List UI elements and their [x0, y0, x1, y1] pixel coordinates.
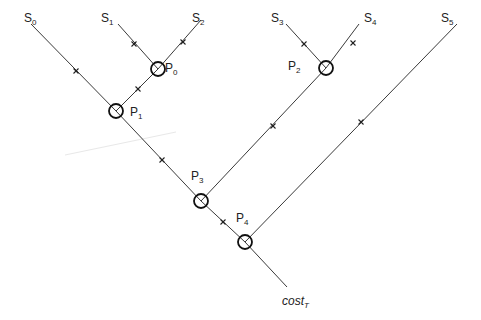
tree-diagram: [0, 0, 481, 320]
source-label-s2: S2: [192, 12, 204, 27]
edge: [201, 68, 326, 201]
source-label-s1: S1: [101, 12, 113, 27]
source-label-s0: S0: [24, 12, 36, 27]
source-label-s4: S4: [364, 12, 376, 27]
edge: [245, 242, 287, 287]
aggregation-nodes: [109, 61, 333, 249]
cross-marks: [74, 40, 364, 225]
node-label-p2: P2: [288, 60, 300, 75]
cross-mark-icon: [359, 120, 364, 125]
faint-artifact-line: [65, 132, 176, 155]
source-label-s5: S5: [441, 12, 453, 27]
cross-mark-icon: [351, 41, 356, 46]
node-label-p1: P1: [130, 106, 142, 121]
source-label-s3: S3: [271, 12, 283, 27]
cross-mark-icon: [302, 42, 307, 47]
node-label-p0: P0: [165, 62, 177, 77]
cross-mark-icon: [160, 158, 165, 163]
edge: [326, 24, 359, 68]
edge: [118, 24, 158, 69]
cross-mark-icon: [221, 220, 226, 225]
sink-label-cost: costT: [282, 295, 309, 310]
node-label-p3: P3: [191, 170, 203, 185]
edge: [116, 111, 201, 201]
node-label-p4: P4: [236, 212, 248, 227]
edges: [31, 20, 457, 287]
cross-mark-icon: [74, 69, 79, 74]
edge: [245, 24, 457, 242]
cross-mark-icon: [136, 87, 141, 92]
edge: [31, 24, 116, 111]
